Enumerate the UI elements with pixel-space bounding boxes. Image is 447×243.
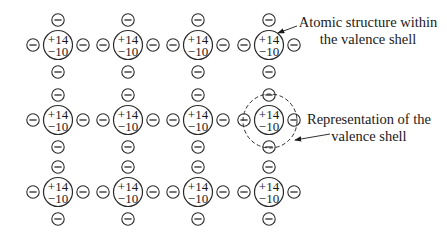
valence-electron-icon (122, 161, 134, 173)
valence-electron-icon (77, 186, 89, 198)
silicon-atom: +14−10 (114, 31, 143, 60)
valence-electron-icon (192, 161, 204, 173)
inner-electron-label: −10 (118, 44, 138, 59)
valence-electron-icon (192, 66, 204, 78)
valence-electron-icon (122, 14, 134, 26)
inner-electron-label: −10 (259, 119, 279, 134)
valence-electron-icon (97, 186, 109, 198)
valence-electron-icon (263, 89, 275, 101)
valence-electron-icon (122, 213, 134, 225)
valence-electron-icon (27, 114, 39, 126)
valence-electron-icon (77, 39, 89, 51)
callout-arrow-icon (278, 26, 297, 33)
valence-electron-icon (192, 89, 204, 101)
callout-atomic-structure: Atomic structure withinthe valence shell (278, 14, 438, 47)
valence-electron-icon (52, 141, 64, 153)
callout-valence-shell: Representation of thevalence shell (295, 111, 431, 144)
valence-electron-icon (122, 89, 134, 101)
inner-electron-label: −10 (118, 119, 138, 134)
inner-electron-label: −10 (188, 191, 208, 206)
valence-electron-icon (263, 66, 275, 78)
valence-electron-icon (288, 186, 300, 198)
valence-electron-icon (167, 186, 179, 198)
valence-electron-icon (217, 39, 229, 51)
callout-text-line: Representation of the (307, 111, 431, 127)
valence-electron-icon (122, 141, 134, 153)
valence-electron-icon (167, 39, 179, 51)
callout-text-line: valence shell (331, 128, 406, 144)
valence-electron-icon (97, 114, 109, 126)
lattice-canvas: +14−10+14−10+14−10+14−10+14−10+14−10+14−… (0, 0, 447, 243)
valence-electron-icon (288, 114, 300, 126)
inner-electron-label: −10 (48, 191, 68, 206)
silicon-atom: +14−10 (44, 106, 73, 135)
valence-electron-icon (238, 39, 250, 51)
silicon-lattice-diagram: +14−10+14−10+14−10+14−10+14−10+14−10+14−… (0, 0, 447, 243)
valence-electron-icon (167, 114, 179, 126)
inner-electron-label: −10 (118, 191, 138, 206)
callout-text-line: Atomic structure within (299, 14, 438, 30)
callout-arrow-icon (295, 134, 330, 140)
callouts-layer: Atomic structure withinthe valence shell… (278, 14, 438, 144)
valence-electron-icon (263, 161, 275, 173)
silicon-atom: +14−10 (44, 178, 73, 207)
inner-electron-label: −10 (259, 191, 279, 206)
callout-text-line: the valence shell (320, 31, 417, 47)
silicon-atom: +14−10 (44, 31, 73, 60)
valence-electron-icon (77, 114, 89, 126)
valence-electron-icon (217, 186, 229, 198)
valence-electron-icon (147, 114, 159, 126)
valence-electron-icon (238, 186, 250, 198)
silicon-atom: +14−10 (255, 106, 284, 135)
silicon-atom: +14−10 (114, 106, 143, 135)
silicon-atom: +14−10 (184, 31, 213, 60)
inner-electron-label: −10 (48, 44, 68, 59)
valence-electron-icon (263, 213, 275, 225)
silicon-atom: +14−10 (184, 178, 213, 207)
valence-electron-icon (52, 161, 64, 173)
valence-electron-icon (147, 186, 159, 198)
valence-electron-icon (263, 14, 275, 26)
silicon-atom: +14−10 (184, 106, 213, 135)
valence-electron-icon (288, 39, 300, 51)
valence-electron-icon (52, 66, 64, 78)
valence-electron-icon (27, 39, 39, 51)
inner-electron-label: −10 (188, 119, 208, 134)
valence-electron-icon (147, 39, 159, 51)
silicon-atom: +14−10 (255, 31, 284, 60)
valence-electron-icon (97, 39, 109, 51)
silicon-atom: +14−10 (114, 178, 143, 207)
valence-electron-icon (27, 186, 39, 198)
inner-electron-label: −10 (188, 44, 208, 59)
valence-electron-icon (52, 213, 64, 225)
valence-electron-icon (52, 89, 64, 101)
inner-electron-label: −10 (48, 119, 68, 134)
valence-electron-icon (192, 141, 204, 153)
silicon-atom: +14−10 (255, 178, 284, 207)
valence-electron-icon (192, 213, 204, 225)
valence-electron-icon (217, 114, 229, 126)
valence-electron-icon (192, 14, 204, 26)
inner-electron-label: −10 (259, 44, 279, 59)
valence-electron-icon (122, 66, 134, 78)
valence-electron-icon (238, 114, 250, 126)
valence-electron-icon (52, 14, 64, 26)
